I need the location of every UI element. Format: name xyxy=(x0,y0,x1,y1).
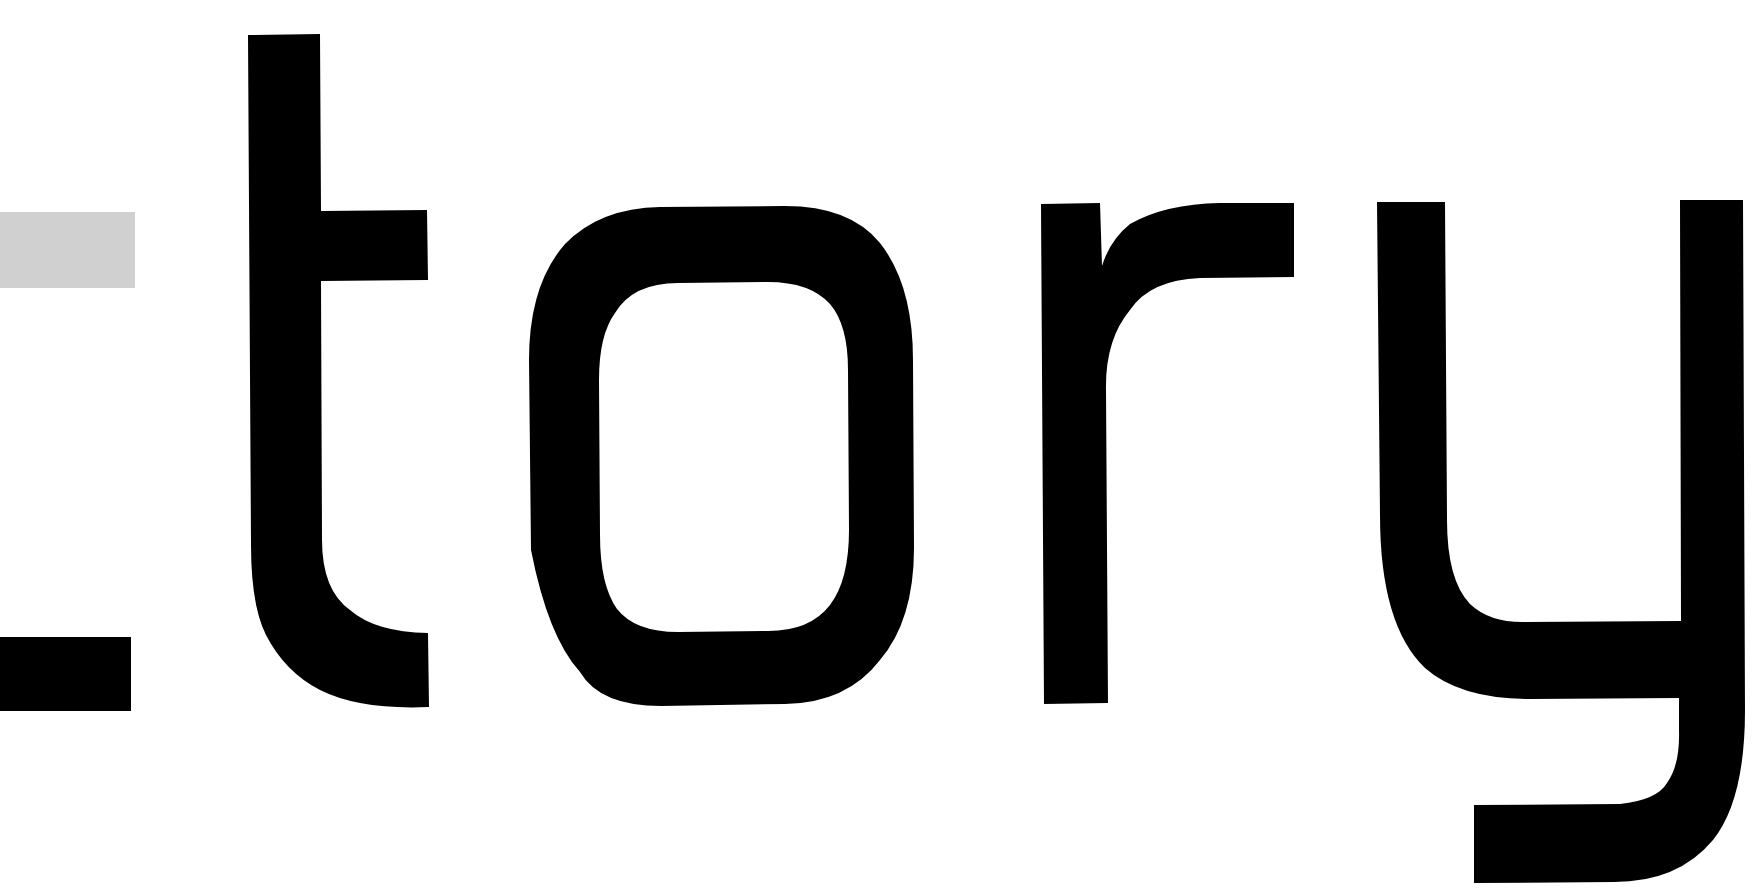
partial-glyph-top-bar xyxy=(0,212,135,288)
partial-glyph-bottom-bar xyxy=(0,637,131,711)
letter-r xyxy=(1041,203,1294,704)
lettering-canvas xyxy=(0,0,1754,892)
letter-t xyxy=(248,34,429,707)
letter-y xyxy=(1377,200,1745,883)
partial-glyph xyxy=(0,212,135,711)
letter-o xyxy=(529,206,914,706)
